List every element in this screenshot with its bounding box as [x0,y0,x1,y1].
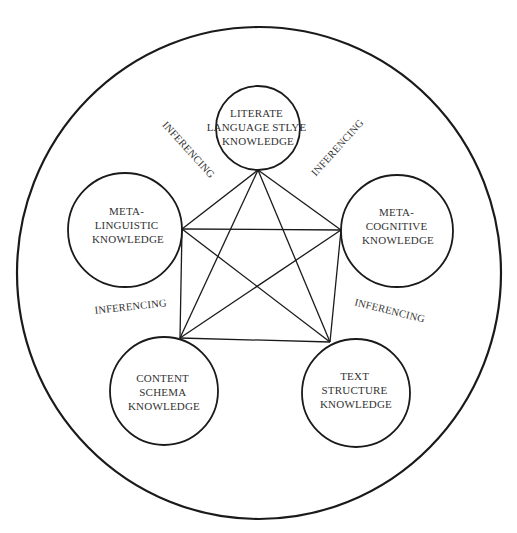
edge-literate-content-schema [180,170,258,338]
node-text-structure: TEXT STRUCTURE KNOWLEDGE [302,339,410,447]
node-label-line: KNOWLEDGE [362,234,434,246]
node-label-line: KNOWLEDGE [320,398,392,410]
node-label-line: META- [379,206,414,218]
edge-label-upper-right: INFERENCING [309,117,366,178]
node-content-schema: CONTENT SCHEMA KNOWLEDGE [110,337,218,445]
node-label-line: META- [109,205,144,217]
node-label-line: COGNITIVE [366,220,428,232]
inferencing-diagram: LITERATE LANGUAGE STLYE KNOWLEDGE META- … [0,0,517,533]
node-label-line: LANGUAGE STLYE [207,121,307,133]
svg-text:META- LINGUISTIC K: META- LINGUISTIC KNOWLEDGE [92,205,164,245]
edge-literate-metalinguistic [182,170,258,229]
svg-text:META- COGNITIVE KN: META- COGNITIVE KNOWLEDGE [362,206,434,246]
node-label-line: SCHEMA [139,386,186,398]
node-label-line: LINGUISTIC [95,219,159,231]
node-label-line: CONTENT [136,372,189,384]
node-literate: LITERATE LANGUAGE STLYE KNOWLEDGE [207,86,310,170]
node-label-line: LITERATE [230,107,283,119]
edge-label-lower-right: INFERENCING [353,297,426,325]
node-label-line: KNOWLEDGE [128,400,200,412]
edge-label-lower-left: INFERENCING [94,297,167,316]
node-metalinguistic: META- LINGUISTIC KNOWLEDGE [68,173,182,287]
edge-content-schema-text-structure [180,338,330,342]
node-label-line: KNOWLEDGE [222,135,294,147]
node-label-line: KNOWLEDGE [92,233,164,245]
edges [180,170,341,342]
node-label-line: TEXT [340,370,369,382]
outer-circle [17,27,501,519]
svg-text:LITERATE LANGUAGE STLYE: LITERATE LANGUAGE STLYE KNOWLEDGE [207,107,310,147]
edge-metalinguistic-metacognitive [182,229,341,230]
node-label-line: STRUCTURE [322,384,388,396]
node-metacognitive: META- COGNITIVE KNOWLEDGE [341,175,453,287]
edge-metacognitive-text-structure [330,230,341,342]
svg-text:CONTENT SCHEMA KNO: CONTENT SCHEMA KNOWLEDGE [128,372,200,412]
svg-text:TEXT STRUCTURE KNO: TEXT STRUCTURE KNOWLEDGE [320,370,392,410]
